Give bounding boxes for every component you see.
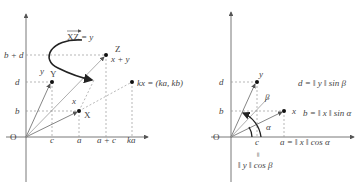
annotation-rhs: = y [81, 32, 93, 42]
label-Y: Y [50, 69, 57, 79]
tick-b: b [15, 106, 20, 116]
tick-a: a [77, 135, 82, 145]
label-y-right: y [258, 69, 263, 79]
vector-x-plus-y [26, 57, 104, 137]
tick-d-right: d [219, 77, 224, 87]
label-alpha: α [266, 122, 271, 132]
label-kx: kx = (ka, kb) [137, 78, 183, 88]
point-y-right [255, 80, 259, 84]
point-x-right [282, 109, 286, 113]
right-figure: O d b y x β α d = ‖ y ‖ sin β b = ‖ x ‖ … [211, 12, 354, 182]
arc-alpha [249, 127, 252, 137]
left-origin-label: O [10, 132, 17, 142]
tick-c: c [50, 135, 54, 145]
tick-b-right: b [219, 106, 224, 116]
label-y-vector: y [39, 66, 44, 76]
equation-a: a = ‖ x ‖ cos α [280, 137, 330, 147]
equation-c: ‖ y ‖ cos β [238, 160, 273, 170]
vector-x [26, 112, 77, 137]
left-figure: O c a a + c ka b + d d b x X y Y Z x + y… [4, 14, 183, 182]
vector-y [26, 84, 50, 137]
point-y [50, 80, 54, 84]
point-z [104, 53, 108, 57]
label-x-vector: x [71, 96, 76, 106]
equals-sign: = [253, 152, 263, 157]
equation-d: d = ‖ y ‖ sin β [298, 78, 347, 88]
equation-b: b = ‖ x ‖ sin α [303, 108, 352, 118]
point-kx [130, 80, 134, 84]
tick-c-right: c [255, 137, 259, 147]
label-Z: Z [115, 44, 121, 54]
tick-d: d [15, 77, 20, 87]
annotation-xz: XZ [67, 32, 79, 42]
label-x-right: x [291, 106, 296, 116]
label-X: X [84, 110, 91, 120]
right-origin-label: O [213, 132, 220, 142]
tick-b-plus-d: b + d [4, 50, 24, 60]
tick-a-plus-c: a + c [97, 135, 116, 145]
label-beta: β [264, 92, 270, 102]
guide-kx-line [79, 82, 132, 111]
tick-ka: ka [127, 135, 136, 145]
diagram-canvas: O c a a + c ka b + d d b x X y Y Z x + y… [0, 0, 357, 186]
annotation-xz-eq-y: XZ = y [67, 31, 93, 42]
vector-y-right [231, 84, 255, 137]
point-x [77, 109, 81, 113]
label-x-plus-y: x + y [110, 54, 130, 64]
guide-xz [79, 80, 94, 111]
